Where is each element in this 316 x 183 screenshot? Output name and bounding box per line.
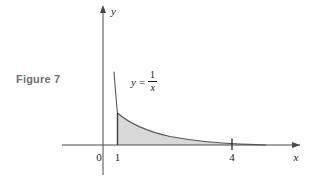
x-axis-label: x	[293, 151, 299, 163]
equation-fraction: 1 x	[148, 70, 157, 93]
x-axis-arrowhead	[292, 142, 300, 148]
y-axis-label: y	[110, 5, 116, 17]
shaded-area-region	[118, 113, 233, 145]
axis-origin-label: 0	[96, 151, 102, 163]
y-axis-arrowhead	[100, 5, 106, 13]
figure-canvas: Figure 7 0 1 4 y x y = 1	[0, 0, 316, 183]
equation-lhs: y	[131, 77, 136, 88]
curve-equation-annotation: y = 1 x	[131, 71, 157, 94]
x-tick-label-1: 1	[115, 151, 121, 163]
graph-plot: 0 1 4 y x	[0, 0, 316, 183]
equation-equals-sign: =	[139, 77, 145, 88]
equation-denominator: x	[148, 82, 156, 93]
equation-numerator: 1	[148, 70, 157, 81]
x-tick-label-4: 4	[229, 151, 235, 163]
